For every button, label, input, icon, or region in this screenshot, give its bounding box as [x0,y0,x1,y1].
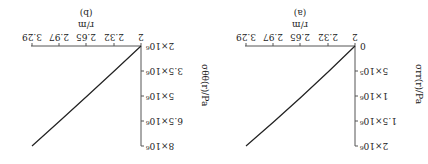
y-tick: 5×10⁶ [146,91,206,101]
chart-panel-b: 2×10⁶ 3.5×10⁶ 5×10⁶ 6.5×10⁶ 8×10⁶ 2 2.32… [0,0,214,164]
y-tick: 1×10⁶ [360,91,420,101]
panel-label: (b) [80,8,93,18]
y-tick: 3.5×10⁶ [146,66,206,76]
curve-b [32,46,141,146]
chart-panel-a: 0 5×10⁵ 1×10⁶ 1.5×10⁶ 2×10⁶ 2 2.32 2.65 … [214,0,428,164]
x-tick: 3.29 [236,32,256,42]
y-tick: 6.5×10⁶ [146,116,206,126]
x-tick: 2.32 [104,32,124,42]
plot-a [214,0,428,164]
y-tick: 8×10⁶ [146,141,206,151]
y-tick: 0 [360,41,420,51]
x-axis-label: r/m [78,20,94,30]
y-axis-label: σrr(r)/Pa [414,64,424,104]
x-tick: 2.65 [290,32,310,42]
y-tick: 2×10⁶ [146,41,206,51]
x-tick: 2.97 [263,32,283,42]
x-tick: 2.65 [76,32,96,42]
plot-b [0,0,214,164]
x-tick: 3.29 [22,32,42,42]
rotated-figure: 0 5×10⁵ 1×10⁶ 1.5×10⁶ 2×10⁶ 2 2.32 2.65 … [0,0,428,164]
y-axis-label: σθθ(r)/Pa [200,64,210,106]
y-tick: 1.5×10⁶ [360,116,420,126]
panel-label: (a) [294,8,306,18]
x-tick: 2.97 [49,32,69,42]
curve-a [246,46,355,146]
y-tick: 5×10⁵ [360,66,420,76]
x-axis-label: r/m [292,20,308,30]
x-tick: 2 [138,32,144,42]
x-tick: 2.32 [318,32,338,42]
x-tick: 2 [352,32,358,42]
y-tick: 2×10⁶ [360,141,420,151]
